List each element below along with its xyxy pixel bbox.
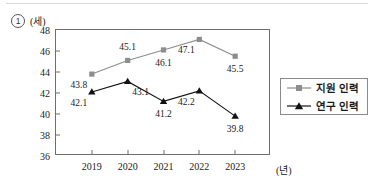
data-point-label: 42.1: [71, 98, 88, 108]
square-marker-icon: [197, 37, 202, 42]
x-tick-label: 2019: [82, 161, 102, 172]
y-tick-label: 42: [40, 88, 50, 99]
data-point-label: 45.1: [119, 42, 136, 52]
x-tick-label: 2020: [118, 161, 138, 172]
data-point-label: 39.8: [227, 124, 244, 134]
series-layer: [56, 30, 269, 154]
triangle-marker-icon: [124, 78, 131, 84]
y-tick-label: 40: [40, 109, 50, 120]
legend-label-support: 지원 인력: [316, 80, 359, 95]
x-tick-label: 2021: [154, 161, 174, 172]
square-marker-icon: [89, 72, 94, 77]
legend-item-research[interactable]: 연구 인력: [286, 98, 362, 113]
square-marker-icon: [161, 47, 166, 52]
legend-label-research: 연구 인력: [316, 98, 359, 113]
data-point-label: 41.2: [155, 109, 172, 119]
y-tick-label: 38: [40, 130, 50, 141]
data-point-label: 45.5: [227, 64, 244, 74]
data-point-label: 43.8: [71, 80, 88, 90]
data-point-label: 43.1: [132, 87, 149, 97]
triangle-marker-icon: [196, 87, 203, 93]
legend-item-support[interactable]: 지원 인력: [286, 80, 362, 95]
chart-legend: 지원 인력 연구 인력: [280, 78, 368, 115]
x-tick-label: 2022: [189, 161, 209, 172]
square-marker-icon: [286, 83, 312, 93]
x-tick-label: 2023: [225, 161, 245, 172]
series-line-square: [92, 39, 235, 74]
y-tick-label: 46: [40, 46, 50, 57]
data-point-label: 46.1: [155, 58, 172, 68]
triangle-marker-icon: [231, 113, 238, 119]
y-tick-label: 44: [40, 67, 50, 78]
data-point-label: 42.2: [178, 97, 195, 107]
x-axis-unit-label: (년): [276, 162, 292, 177]
item-number-badge: 1: [11, 14, 25, 28]
y-tick-label: 48: [40, 25, 50, 36]
square-marker-icon: [125, 58, 130, 63]
triangle-marker-icon: [286, 101, 312, 111]
plot-area: 36384042444648 20192020202120222023 43.8…: [55, 29, 270, 155]
top-divider-rule: [6, 3, 368, 4]
square-marker-icon: [233, 54, 238, 59]
y-tick-label: 36: [40, 151, 50, 162]
data-point-label: 47.1: [178, 45, 195, 55]
